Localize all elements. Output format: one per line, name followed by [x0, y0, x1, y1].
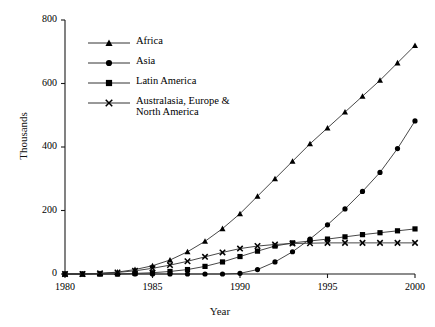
- y-tick-label-800: 800: [27, 13, 57, 24]
- x-tick-label-1990: 1990: [215, 281, 265, 292]
- legend-item-2: Latin America: [88, 76, 230, 90]
- x-tick-label-1985: 1985: [128, 281, 178, 292]
- y-tick-label-0: 0: [27, 267, 57, 278]
- x-axis-label: Year: [165, 305, 275, 317]
- legend-item-1: Asia: [88, 56, 230, 70]
- y-tick-label-200: 200: [27, 204, 57, 215]
- series-1: [62, 118, 417, 276]
- circle-marker-icon: [88, 56, 130, 70]
- y-axis-label: Thousands: [17, 91, 29, 181]
- cross-marker-icon: [88, 96, 130, 110]
- triangle-marker-icon: [88, 36, 130, 50]
- y-tick-label-600: 600: [27, 77, 57, 88]
- chart-figure: Thousands Year 0200400600800 19801985199…: [0, 0, 435, 327]
- legend-label-1: Asia: [130, 56, 155, 67]
- y-tick-marks: [61, 20, 65, 274]
- legend-label-0: Africa: [130, 36, 163, 47]
- legend-label-2: Latin America: [130, 76, 196, 87]
- legend-item-0: Africa: [88, 36, 230, 50]
- y-tick-label-400: 400: [27, 140, 57, 151]
- legend-item-3: Australasia, Europe & North America: [88, 96, 230, 118]
- x-tick-label-2000: 2000: [390, 281, 435, 292]
- chart-legend: AfricaAsiaLatin AmericaAustralasia, Euro…: [88, 36, 230, 124]
- x-tick-label-1980: 1980: [40, 281, 90, 292]
- series-2: [62, 226, 417, 276]
- square-marker-icon: [88, 76, 130, 90]
- legend-label-3: Australasia, Europe & North America: [130, 96, 230, 117]
- x-tick-label-1995: 1995: [303, 281, 353, 292]
